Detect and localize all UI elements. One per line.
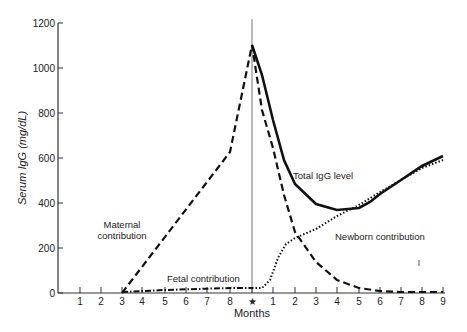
x-tick-label: 3	[119, 296, 125, 307]
artifact-mark	[418, 260, 420, 266]
x-tick-label: 6	[183, 296, 189, 307]
igg-chart: 02004006008001000120012345678★123456789 …	[0, 0, 467, 332]
x-tick-label: 3	[313, 296, 319, 307]
x-tick-label: 8	[419, 296, 425, 307]
newborn-label: Newborn contribution	[335, 231, 425, 242]
maternal-label-1: Maternal	[104, 219, 141, 230]
x-tick-label: 5	[162, 296, 168, 307]
total-label: Total IgG level	[293, 170, 353, 181]
x-tick-label: 7	[398, 296, 404, 307]
x-tick-label: 7	[204, 296, 210, 307]
y-tick-label: 1000	[33, 63, 56, 74]
y-tick-label: 800	[38, 108, 55, 119]
x-tick-label: 9	[440, 296, 446, 307]
x-tick-label: 8	[227, 296, 233, 307]
y-tick-label: 400	[38, 198, 55, 209]
fetal-label: Fetal contribution	[167, 273, 240, 284]
x-tick-label: 1	[270, 296, 276, 307]
y-tick-label: 600	[38, 153, 55, 164]
x-tick-label: 1	[77, 296, 83, 307]
series-lines	[122, 45, 443, 293]
x-tick-label: 4	[334, 296, 340, 307]
y-axis-label: Serum IgG (mg/dL)	[16, 111, 28, 205]
x-tick-label: 5	[356, 296, 362, 307]
x-axis-label: Months	[234, 307, 271, 319]
y-tick-label: 1200	[33, 18, 56, 29]
x-tick-label: 4	[139, 296, 145, 307]
maternal-label-2: contribution	[97, 230, 146, 241]
x-tick-label: 2	[292, 296, 298, 307]
x-tick-label: 6	[377, 296, 383, 307]
axes: 02004006008001000120012345678★123456789	[33, 18, 446, 307]
x-tick-label: ★	[248, 296, 257, 307]
y-tick-label: 200	[38, 243, 55, 254]
x-tick-label: 2	[98, 296, 104, 307]
y-tick-label: 0	[49, 288, 55, 299]
